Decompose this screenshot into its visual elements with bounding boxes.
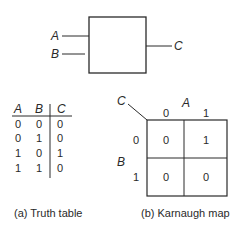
kmap-cell: 0: [163, 172, 169, 183]
kmap-cell: 1: [203, 135, 209, 146]
truth-table-cell: 1: [15, 148, 21, 159]
truth-table-cell: 1: [36, 133, 42, 144]
truth-table-header-a: A: [14, 103, 22, 115]
truth-table-header-c: C: [57, 103, 66, 115]
truth-table-caption: (a) Truth table: [14, 208, 82, 219]
truth-table-cell: 1: [57, 148, 63, 159]
truth-table-cell: 0: [57, 163, 63, 174]
truth-table-cell: 0: [36, 148, 42, 159]
truth-table-header-b: B: [35, 103, 43, 115]
kmap-corner-diagonal: [128, 104, 147, 120]
truth-table-cell: 0: [57, 119, 63, 130]
kmap-cell: 0: [163, 135, 169, 146]
truth-table-cell: 0: [15, 133, 21, 144]
truth-table-cell: 0: [57, 133, 63, 144]
kmap-col-value: 0: [163, 108, 169, 119]
truth-table-cell: 1: [15, 163, 21, 174]
kmap-col-value: 1: [203, 108, 209, 119]
input-label-b: B: [51, 48, 59, 60]
kmap-row-var: B: [117, 156, 125, 168]
input-label-a: A: [51, 30, 59, 42]
kmap-output-label: C: [117, 95, 126, 107]
kmap-row-value: 1: [133, 172, 139, 183]
truth-table-cell: 0: [36, 119, 42, 130]
kmap-col-var: A: [182, 97, 190, 109]
kmap-caption: (b) Karnaugh map: [141, 208, 230, 219]
kmap-cell: 0: [203, 172, 209, 183]
truth-table-cell: 0: [15, 119, 21, 130]
kmap-row-value: 0: [133, 135, 139, 146]
truth-table-cell: 1: [36, 163, 42, 174]
logic-block: [89, 17, 146, 73]
output-label-c: C: [174, 40, 183, 52]
